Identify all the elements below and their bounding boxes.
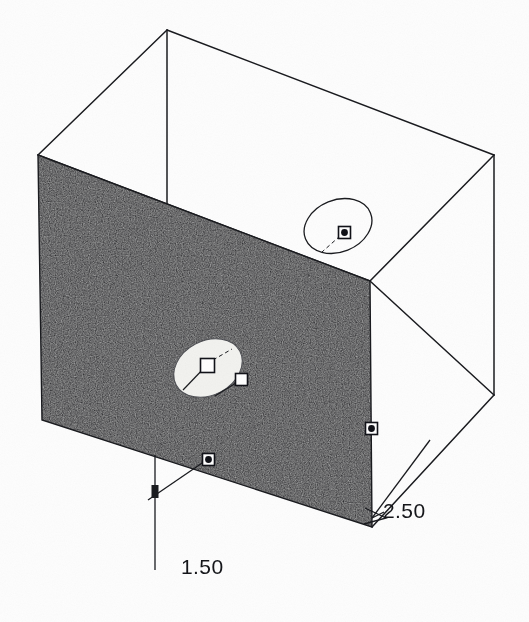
height-dimension-tick bbox=[152, 485, 159, 498]
handle-bottom-edge[interactable] bbox=[203, 454, 215, 466]
handle-right-edge[interactable] bbox=[366, 423, 378, 435]
handle-hole-center[interactable] bbox=[201, 359, 215, 373]
handle-hole-radius[interactable] bbox=[236, 374, 248, 386]
width-dimension-label: 2.50 bbox=[383, 499, 425, 523]
cad-drawing-canvas[interactable] bbox=[0, 0, 529, 622]
height-dimension-terminator bbox=[155, 565, 179, 570]
handle-top-hole-center[interactable] bbox=[339, 227, 351, 239]
height-dimension-label: 1.50 bbox=[181, 555, 223, 579]
cad-viewport[interactable]: 1.50 2.50 bbox=[0, 0, 529, 622]
